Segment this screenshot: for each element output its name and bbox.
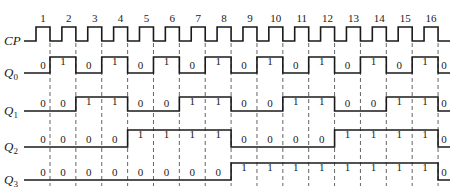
pulse-number: 3 (92, 12, 98, 24)
bit-value: 0 (441, 133, 447, 145)
bit-value: 0 (112, 133, 118, 145)
bit-value: 0 (241, 133, 247, 145)
bit-value: 0 (138, 97, 144, 109)
bit-value: 0 (441, 59, 447, 71)
bit-value: 1 (345, 128, 351, 140)
bit-value: 0 (345, 59, 351, 71)
bit-value: 1 (345, 161, 351, 173)
bit-value: 0 (60, 133, 66, 145)
bit-value: 1 (164, 55, 170, 67)
bit-value: 1 (319, 161, 325, 173)
bit-value: 0 (86, 133, 92, 145)
pulse-number: 5 (144, 12, 150, 24)
bit-value: 1 (371, 128, 377, 140)
q3-row: Q300000000111111110 (4, 161, 450, 189)
bit-value: 0 (319, 133, 325, 145)
bit-value: 1 (241, 161, 247, 173)
bit-value: 0 (164, 97, 170, 109)
bit-value: 0 (138, 166, 144, 178)
bit-value: 1 (215, 128, 221, 140)
bit-value: 0 (293, 133, 299, 145)
bit-value: 1 (267, 161, 273, 173)
pulse-number: 12 (322, 12, 333, 24)
bit-value: 0 (267, 97, 273, 109)
cp-waveform (24, 27, 450, 41)
bit-value: 1 (190, 128, 196, 140)
output-waveforms: Q001010101010101010Q100110011001100110Q2… (4, 55, 450, 189)
bit-value: 1 (422, 128, 428, 140)
bit-value: 0 (396, 59, 402, 71)
bit-value: 1 (422, 95, 428, 107)
q2-label: Q2 (4, 139, 18, 156)
bit-value: 1 (422, 161, 428, 173)
q3-label: Q3 (4, 172, 18, 189)
bit-value: 1 (293, 161, 299, 173)
q1-row: Q100110011001100110 (4, 95, 450, 120)
bit-value: 1 (396, 128, 402, 140)
bit-value: 1 (319, 55, 325, 67)
pulse-number: 9 (247, 12, 253, 24)
bit-value: 1 (60, 55, 66, 67)
bit-value: 0 (40, 59, 46, 71)
timing-diagram-canvas: CP12345678910111213141516 Q0010101010101… (0, 0, 464, 193)
timing-diagram: CP12345678910111213141516 Q0010101010101… (0, 0, 464, 193)
pulse-number: 7 (195, 12, 201, 24)
q0-label: Q0 (4, 65, 18, 82)
bit-value: 0 (190, 166, 196, 178)
bit-value: 1 (215, 55, 221, 67)
pulse-number: 10 (270, 12, 282, 24)
bit-value: 1 (267, 55, 273, 67)
bit-value: 1 (112, 55, 118, 67)
bit-value: 1 (215, 95, 221, 107)
bit-value: 1 (396, 161, 402, 173)
bit-value: 1 (190, 95, 196, 107)
bit-value: 0 (86, 59, 92, 71)
bit-value: 1 (112, 95, 118, 107)
bit-value: 0 (40, 166, 46, 178)
pulse-number: 14 (374, 12, 386, 24)
bit-value: 0 (441, 166, 447, 178)
bit-value: 1 (138, 128, 144, 140)
bit-value: 1 (371, 161, 377, 173)
q0-row: Q001010101010101010 (4, 55, 450, 82)
bit-value: 0 (241, 97, 247, 109)
bit-value: 0 (40, 133, 46, 145)
bit-value: 0 (293, 59, 299, 71)
bit-value: 0 (241, 59, 247, 71)
bit-value: 1 (293, 95, 299, 107)
bit-value: 0 (164, 166, 170, 178)
pulse-number: 6 (170, 12, 176, 24)
pulse-number: 11 (296, 12, 307, 24)
bit-value: 0 (86, 166, 92, 178)
bit-value: 0 (190, 59, 196, 71)
pulse-number: 1 (40, 12, 46, 24)
bit-value: 1 (319, 95, 325, 107)
bit-value: 0 (371, 97, 377, 109)
pulse-number: 13 (348, 12, 360, 24)
bit-value: 0 (112, 166, 118, 178)
bit-value: 0 (138, 59, 144, 71)
bit-value: 0 (215, 166, 221, 178)
pulse-number: 16 (426, 12, 438, 24)
pulse-number: 2 (66, 12, 72, 24)
bit-value: 0 (60, 97, 66, 109)
bit-value: 1 (422, 55, 428, 67)
cp-label: CP (4, 33, 21, 48)
bit-value: 0 (267, 133, 273, 145)
bit-value: 0 (345, 97, 351, 109)
bit-value: 1 (86, 95, 92, 107)
q1-label: Q1 (4, 103, 18, 120)
bit-value: 0 (40, 97, 46, 109)
bit-value: 1 (396, 95, 402, 107)
bit-value: 1 (164, 128, 170, 140)
clock-waveform: CP12345678910111213141516 (4, 12, 450, 48)
bit-value: 0 (441, 97, 447, 109)
pulse-number: 8 (221, 12, 227, 24)
bit-value: 0 (60, 166, 66, 178)
pulse-number: 4 (118, 12, 124, 24)
pulse-number: 15 (400, 12, 412, 24)
bit-value: 1 (371, 55, 377, 67)
q2-row: Q200001111000011110 (4, 128, 450, 156)
